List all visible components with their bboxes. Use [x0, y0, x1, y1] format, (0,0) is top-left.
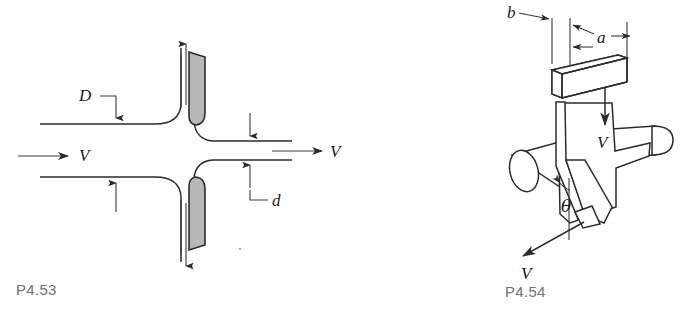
figure-panel: D d V V P4.53 b a — [0, 0, 683, 317]
upper-right-pipe-wall — [194, 122, 292, 141]
caption-p4-54: P4.54 — [505, 283, 546, 300]
diameter-d-leader — [250, 190, 268, 200]
horizontal-pipe-right-end-cap — [652, 126, 673, 155]
caption-p4-53: P4.53 — [16, 281, 57, 298]
label-diameter-d: d — [272, 191, 281, 210]
lower-right-pipe-wall — [194, 160, 292, 178]
lower-left-pipe-wall — [40, 177, 181, 262]
lower-plate — [189, 177, 205, 250]
label-duct-width-a: a — [597, 28, 606, 47]
print-speck — [239, 248, 241, 250]
label-jet-angle-theta: θ — [561, 196, 571, 216]
label-outlet-velocity: V — [330, 142, 343, 161]
exit-velocity-arrow — [523, 222, 584, 256]
label-inlet-velocity: V — [79, 146, 92, 165]
upper-plate — [189, 52, 205, 125]
upper-left-pipe-wall — [40, 48, 181, 124]
label-exit-velocity: V — [521, 264, 534, 283]
b-leader-arrow — [519, 13, 549, 19]
figure-p4-53-svg: D d V V P4.53 b a — [0, 0, 683, 317]
label-duct-thickness-b: b — [507, 3, 516, 22]
a-upper-slant-arrow — [573, 25, 594, 34]
label-diameter-D: D — [78, 86, 92, 105]
inlet-box-left-face — [552, 70, 562, 98]
diameter-D-leader — [100, 96, 116, 118]
